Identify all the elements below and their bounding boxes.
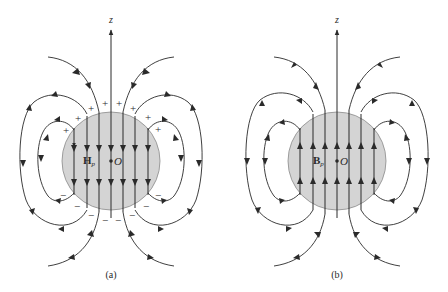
svg-text:+: + [102,97,108,109]
origin-label-b: O [340,155,348,167]
svg-text:−: − [155,189,161,201]
origin-point-b [335,159,339,163]
svg-text:−: − [88,209,94,221]
svg-text:−: − [74,200,80,212]
z-axis-label-a: z [108,14,113,25]
svg-text:+: + [130,102,136,114]
svg-text:+: + [155,123,161,135]
panel-a: z [20,14,202,281]
svg-text:+: + [75,112,81,124]
caption-a: (a) [105,269,116,281]
figure-canvas: z [0,0,448,292]
z-axis-label-b: z [334,14,339,25]
origin-point-a [109,159,113,163]
svg-text:−: − [102,214,108,226]
svg-text:+: + [63,124,69,136]
svg-text:+: + [116,97,122,109]
svg-text:+: + [145,111,151,123]
caption-b: (b) [331,269,343,281]
svg-text:−: − [115,214,121,226]
origin-label-a: O [114,155,122,167]
panel-b: z [244,14,430,281]
svg-text:−: − [143,200,149,212]
svg-text:−: − [129,209,135,221]
svg-text:−: − [60,189,66,201]
svg-text:+: + [88,102,94,114]
